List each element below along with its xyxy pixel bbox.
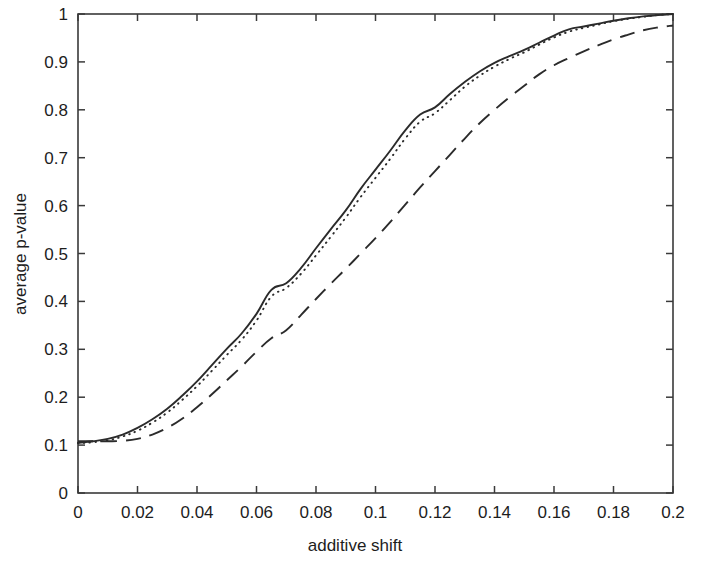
plot-box (78, 14, 673, 493)
x-tick-label: 0.08 (299, 503, 332, 522)
x-tick-label: 0.12 (418, 503, 451, 522)
x-tick-label: 0.04 (180, 503, 213, 522)
y-axis-ticks (78, 14, 673, 493)
x-tick-label: 0 (73, 503, 82, 522)
y-tick-label: 0.7 (44, 149, 68, 168)
x-tick-label: 0.14 (478, 503, 511, 522)
y-tick-label: 0 (59, 484, 68, 503)
y-tick-label: 0.1 (44, 436, 68, 455)
x-tick-label: 0.18 (597, 503, 630, 522)
x-tick-label: 0.16 (537, 503, 570, 522)
chart-figure: 00.020.040.060.080.10.120.140.160.180.2 … (0, 0, 701, 568)
x-tick-label: 0.1 (364, 503, 388, 522)
y-axis-tick-labels: 00.10.20.30.40.50.60.70.80.91 (44, 5, 68, 503)
x-axis-tick-labels: 00.020.040.060.080.10.120.140.160.180.2 (73, 503, 685, 522)
series-line-dashed (78, 26, 673, 442)
series-layer (78, 14, 673, 443)
y-tick-label: 0.3 (44, 340, 68, 359)
series-line-solid (78, 14, 673, 443)
x-axis-title: additive shift (308, 536, 403, 555)
plot-frame (78, 14, 673, 493)
y-tick-label: 0.5 (44, 245, 68, 264)
series-line-dotted (78, 14, 673, 443)
x-axis-ticks (78, 14, 673, 493)
x-tick-label: 0.02 (121, 503, 154, 522)
y-tick-label: 0.8 (44, 101, 68, 120)
y-axis-title: average p-value (11, 193, 30, 315)
y-tick-label: 0.9 (44, 53, 68, 72)
y-tick-label: 1 (59, 5, 68, 24)
line-chart: 00.020.040.060.080.10.120.140.160.180.2 … (0, 0, 701, 568)
x-tick-label: 0.06 (240, 503, 273, 522)
x-tick-label: 0.2 (661, 503, 685, 522)
y-tick-label: 0.6 (44, 197, 68, 216)
y-tick-label: 0.4 (44, 292, 68, 311)
y-tick-label: 0.2 (44, 388, 68, 407)
